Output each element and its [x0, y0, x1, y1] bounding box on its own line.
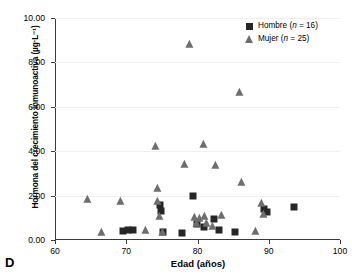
x-tick-label: 90 — [254, 246, 284, 256]
y-tick-label: 0.00 — [7, 235, 45, 245]
x-tick-label: 100 — [325, 246, 352, 256]
x-axis-title: Edad (años) — [55, 258, 341, 269]
x-tick-label: 80 — [183, 246, 213, 256]
panel-label: D — [5, 255, 14, 270]
data-point-mujer — [97, 228, 105, 236]
data-point-mujer — [154, 197, 162, 205]
y-tick-label: 6.00 — [7, 102, 45, 112]
gridline — [55, 196, 340, 197]
x-tick-mark — [340, 240, 341, 244]
triangle-marker-icon — [243, 35, 255, 43]
y-tick-label: 2.00 — [7, 191, 45, 201]
x-tick-mark — [269, 240, 270, 244]
data-point-mujer — [116, 197, 124, 205]
data-point-mujer — [209, 222, 217, 230]
gridline — [55, 18, 340, 19]
data-point-mujer — [211, 161, 219, 169]
legend-label-hombre: Hombre (n = 16) — [258, 20, 318, 33]
gridline — [55, 62, 340, 63]
x-tick-mark — [198, 240, 199, 244]
data-point-mujer — [251, 226, 259, 234]
data-point-hombre — [190, 192, 197, 199]
data-point-hombre — [291, 203, 298, 210]
x-tick-mark — [126, 240, 127, 244]
data-point-hombre — [232, 228, 239, 235]
data-point-mujer — [158, 228, 166, 236]
y-tick-label: 4.00 — [7, 146, 45, 156]
data-point-mujer — [142, 225, 150, 233]
data-point-hombre — [129, 226, 136, 233]
y-tick-label: 8.00 — [7, 57, 45, 67]
legend-item-hombre: Hombre (n = 16) — [243, 20, 318, 33]
data-point-mujer — [237, 178, 245, 186]
data-point-mujer — [199, 139, 207, 147]
data-point-mujer — [186, 40, 194, 48]
legend: Hombre (n = 16) Mujer (n = 25) — [243, 20, 318, 45]
x-tick-mark — [55, 240, 56, 244]
data-point-mujer — [153, 184, 161, 192]
data-point-mujer — [258, 199, 266, 207]
x-tick-label: 70 — [111, 246, 141, 256]
gridline — [55, 107, 340, 108]
data-point-mujer — [260, 210, 268, 218]
data-point-mujer — [155, 211, 163, 219]
x-tick-label: 60 — [40, 246, 70, 256]
legend-item-mujer: Mujer (n = 25) — [243, 33, 318, 46]
legend-label-mujer: Mujer (n = 25) — [258, 33, 309, 46]
data-point-hombre — [178, 230, 185, 237]
data-point-mujer — [217, 210, 225, 218]
data-point-mujer — [83, 195, 91, 203]
data-point-mujer — [152, 142, 160, 150]
data-point-mujer — [235, 88, 243, 96]
square-marker-icon — [243, 23, 255, 30]
data-point-mujer — [180, 160, 188, 168]
gridline — [55, 151, 340, 152]
y-tick-label: 10.00 — [7, 13, 45, 23]
y-axis-line — [55, 18, 56, 240]
